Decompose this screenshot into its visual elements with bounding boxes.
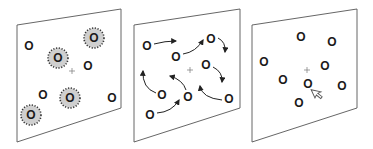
molecule: O <box>65 91 74 105</box>
molecule: O <box>53 51 62 65</box>
molecule: O <box>142 39 151 53</box>
molecule: O <box>320 59 329 73</box>
molecule: O <box>259 55 268 69</box>
molecule: O <box>145 108 154 122</box>
molecule: O <box>38 88 47 102</box>
molecule: O <box>26 108 35 122</box>
molecule: O <box>303 77 312 91</box>
molecule: O <box>294 96 303 110</box>
molecule: O <box>83 59 92 73</box>
panel-3-pointer: O O O O O O O O <box>252 9 357 142</box>
molecule: O <box>183 90 192 104</box>
panel-3-plane <box>252 9 357 142</box>
panel-2-plane <box>134 9 240 142</box>
molecule: O <box>337 79 346 93</box>
molecule: O <box>171 50 180 64</box>
molecule: O <box>224 92 233 106</box>
diagram-canvas: O O O O O O O O O O O O O O O O O O O O <box>0 0 373 149</box>
molecule: O <box>89 31 98 45</box>
molecule: O <box>296 30 305 44</box>
molecule: O <box>107 91 116 105</box>
molecule: O <box>201 58 210 72</box>
molecule: O <box>278 73 287 87</box>
panel-1-halos: O O O O O O O O <box>17 9 121 142</box>
molecule: O <box>157 88 166 102</box>
panel-2-motion: O O O O O O O O <box>134 9 240 142</box>
molecule: O <box>24 39 33 53</box>
molecule: O <box>327 35 336 49</box>
molecule: O <box>206 32 215 46</box>
